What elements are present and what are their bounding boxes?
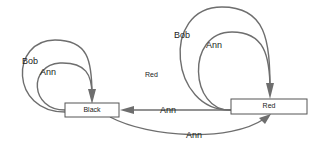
edge-label: Ann	[186, 130, 202, 140]
edge-label: Bob	[22, 56, 38, 66]
edge-label: Ann	[160, 105, 176, 115]
node-label: Red	[263, 102, 276, 109]
edge-red-self-bob: Bob	[174, 7, 274, 110]
arrowhead-icon	[120, 106, 134, 114]
node-label: Black	[83, 106, 101, 113]
floating-label-red: Red	[145, 71, 158, 78]
node-black[interactable]: Black	[65, 103, 119, 117]
edge-red-to-black-ann: Ann	[120, 105, 231, 115]
edge-black-to-red-ann: Ann	[110, 114, 271, 140]
node-red[interactable]: Red	[231, 99, 307, 114]
arrowhead-icon	[259, 114, 271, 124]
edge-red-self-ann: Ann	[198, 32, 270, 110]
state-diagram: Bob Ann Bob Ann Ann Ann Black Red Red	[0, 0, 323, 146]
edge-label: Bob	[174, 30, 190, 40]
edge-black-self-bob: Bob	[22, 40, 96, 112]
edge-label: Ann	[40, 67, 56, 77]
edge-label: Ann	[206, 40, 222, 50]
